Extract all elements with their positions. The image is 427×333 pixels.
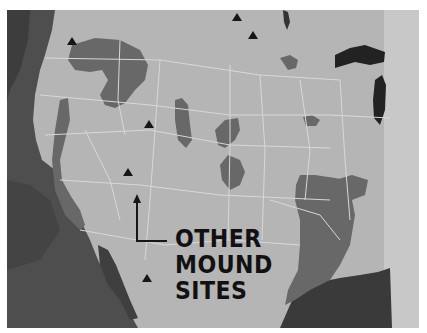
cut-off-caption xyxy=(0,327,427,333)
other-mound-sites-label: OTHER MOUND SITES xyxy=(175,226,273,304)
label-line-1: OTHER xyxy=(175,226,273,252)
label-line-2: MOUND xyxy=(175,252,273,278)
label-line-3: SITES xyxy=(175,278,273,304)
